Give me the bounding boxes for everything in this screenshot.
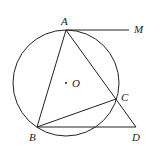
segment-ab	[37, 30, 66, 127]
label-c: C	[121, 92, 128, 103]
label-o: O	[72, 78, 80, 89]
label-a: A	[61, 16, 68, 27]
geometry-diagram: A M O C B D	[0, 0, 153, 159]
label-b: B	[29, 132, 36, 143]
segment-bc	[37, 99, 116, 127]
center-point	[65, 82, 67, 84]
label-m: M	[134, 24, 143, 35]
label-d: D	[132, 132, 140, 143]
